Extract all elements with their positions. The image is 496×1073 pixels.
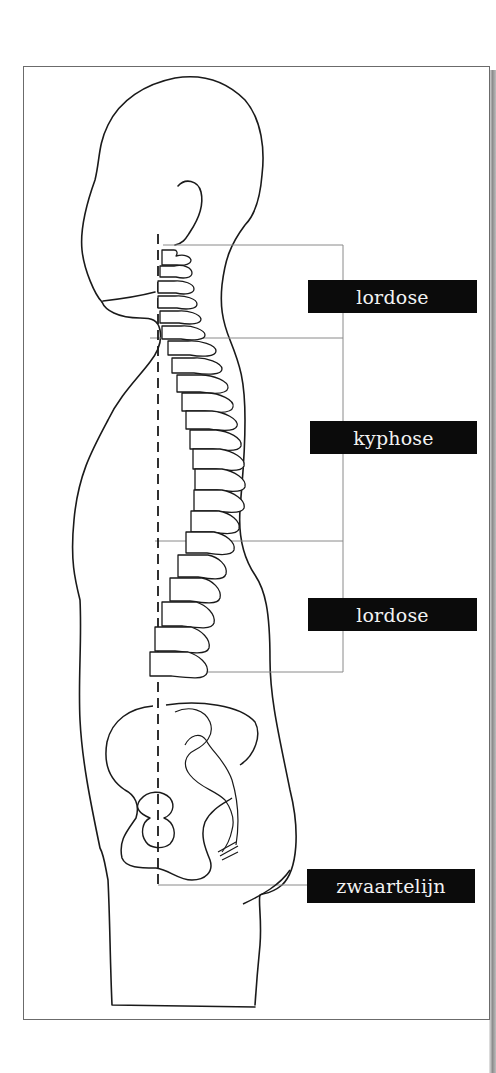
label-plumb-line: zwaartelijn — [307, 869, 475, 903]
label-text: zwaartelijn — [336, 875, 445, 897]
spine — [150, 250, 245, 678]
ear — [175, 181, 202, 245]
label-thoracic-kyphose: kyphose — [310, 421, 477, 454]
label-cervical-lordose: lordose — [308, 280, 477, 313]
label-lumbar-lordose: lordose — [308, 598, 477, 631]
label-text: kyphose — [353, 427, 433, 449]
label-text: lordose — [356, 604, 429, 626]
pelvis — [106, 703, 258, 880]
label-text: lordose — [356, 286, 429, 308]
body-outline — [63, 77, 296, 1007]
spine-diagram — [0, 0, 496, 1073]
buttock-outline — [243, 870, 290, 904]
